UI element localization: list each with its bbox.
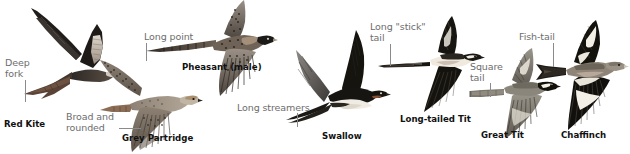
- pheasant-male-illustration: [146, 0, 276, 100]
- species-name-pheasant-male: Pheasant (male): [182, 62, 262, 72]
- label-broad-rounded-line1: Broad and: [66, 111, 114, 122]
- label-square-tail-line2: tail: [470, 72, 484, 83]
- leader-line-long-point: [146, 43, 147, 61]
- species-name-long-tailed-tit: Long-tailed Tit: [400, 114, 471, 124]
- species-name-red-kite: Red Kite: [4, 119, 45, 129]
- label-broad-rounded-line2: rounded: [66, 122, 105, 133]
- label-square-tail-line1: Square: [470, 61, 503, 72]
- label-deep-fork-line1: Deep: [5, 57, 30, 68]
- leader-line-deep-fork: [25, 80, 26, 102]
- leader-line-square-tail: [490, 83, 491, 97]
- label-long-streamers: Long streamers: [237, 102, 310, 113]
- label-long-stick-tail-line1: Long "stick": [370, 21, 426, 32]
- label-fish-tail: Fish-tail: [519, 31, 555, 42]
- label-long-point: Long point: [144, 31, 193, 42]
- bird-figure-pheasant-male: [146, 0, 276, 100]
- species-name-great-tit: Great Tit: [481, 130, 524, 140]
- leader-line-long-streamers: [297, 113, 298, 127]
- leader-line-broad-rounded: [119, 128, 141, 129]
- leader-line-fish-tail: [553, 43, 554, 67]
- label-long-stick-tail-line2: tail: [370, 32, 384, 43]
- species-name-chaffinch: Chaffinch: [561, 130, 606, 140]
- leader-line-long-stick-tail: [390, 44, 391, 66]
- species-name-swallow: Swallow: [322, 131, 362, 141]
- label-deep-fork-line2: fork: [5, 68, 23, 79]
- species-name-grey-partridge: Grey Partridge: [122, 133, 193, 143]
